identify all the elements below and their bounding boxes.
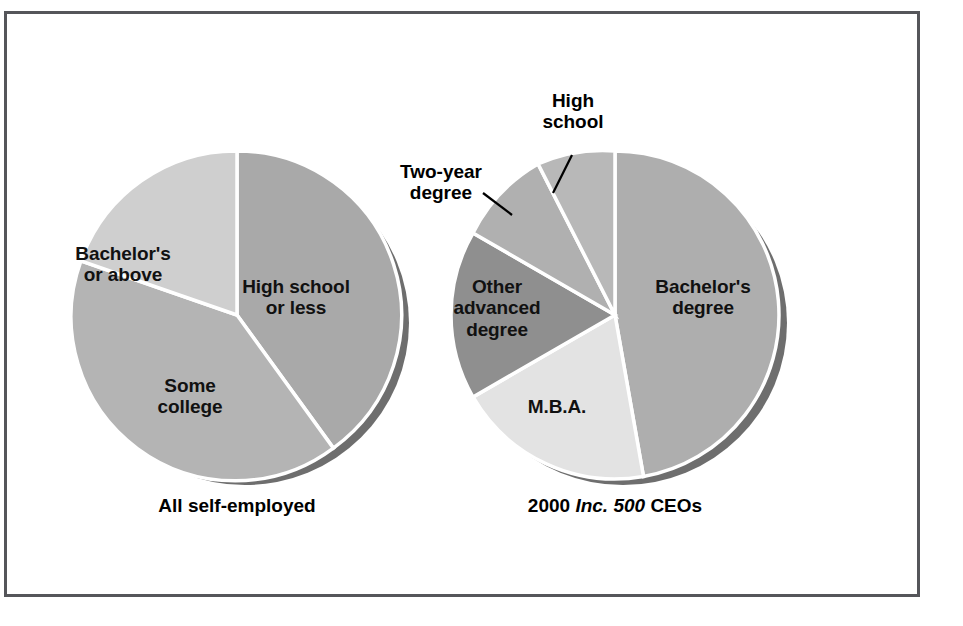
- right-caption-publication: Inc. 500: [575, 495, 645, 516]
- right-callout-two-year-degree: Two-year degree: [385, 161, 497, 204]
- left-pie-caption: All self-employed: [113, 495, 361, 517]
- pie-charts-svg: [0, 0, 963, 626]
- right-slice-bachelors-degree[interactable]: [615, 151, 779, 477]
- right-pie-caption: 2000 Inc. 500 CEOs: [491, 495, 739, 517]
- chart-stage: High school or less Some college Bachelo…: [0, 0, 963, 626]
- right-callout-high-school: High school: [527, 90, 619, 133]
- right-caption-year: 2000: [528, 495, 576, 516]
- right-caption-suffix: CEOs: [645, 495, 702, 516]
